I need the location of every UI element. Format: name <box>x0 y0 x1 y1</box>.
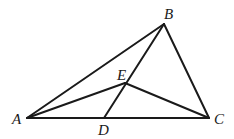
segment-ab <box>27 24 164 118</box>
triangle-diagram: ABCDE <box>0 0 234 139</box>
point-label-d: D <box>97 122 109 138</box>
point-label-e: E <box>116 67 126 83</box>
segment-ec <box>125 83 209 118</box>
point-label-c: C <box>214 111 225 127</box>
segment-bc <box>164 24 209 118</box>
point-label-b: B <box>164 6 173 22</box>
segment-bd <box>104 24 164 118</box>
segment-ae <box>27 83 125 118</box>
point-label-a: A <box>11 111 22 127</box>
